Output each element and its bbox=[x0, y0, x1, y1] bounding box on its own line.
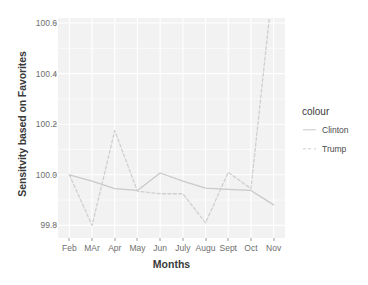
legend-key-swatch bbox=[302, 143, 317, 155]
y-axis-tick-mark bbox=[54, 225, 57, 226]
legend-key-swatch bbox=[302, 124, 317, 136]
y-axis-tick-mark bbox=[54, 73, 57, 74]
x-axis-tick-label: Feb bbox=[62, 243, 77, 253]
legend-title: colour bbox=[302, 106, 366, 117]
y-axis-tick-label: 100.0 bbox=[11, 170, 57, 180]
x-axis-tick-mark bbox=[92, 238, 93, 241]
y-axis-tick-label: 100.6 bbox=[11, 18, 57, 28]
y-axis-tick-mark bbox=[54, 174, 57, 175]
x-axis-tick-label: Nov bbox=[266, 243, 281, 253]
x-axis-tick-mark bbox=[160, 238, 161, 241]
legend-label: Clinton bbox=[322, 125, 348, 135]
x-axis-tick-label: May bbox=[129, 243, 145, 253]
x-axis-tick-label: July bbox=[175, 243, 190, 253]
x-axis-tick-label: Oct bbox=[244, 243, 257, 253]
legend-item-trump[interactable]: Trump bbox=[302, 143, 366, 155]
plot-area bbox=[58, 18, 285, 238]
x-axis-tick-mark bbox=[205, 238, 206, 241]
x-axis-tick-mark bbox=[137, 238, 138, 241]
legend-item-clinton[interactable]: Clinton bbox=[302, 124, 366, 136]
legend-label: Trump bbox=[322, 144, 346, 154]
legend-items: ClintonTrump bbox=[302, 124, 366, 155]
chart-container: Sensitvity based on Favorites Months 99.… bbox=[0, 0, 368, 285]
y-axis-tick-label: 100.2 bbox=[11, 119, 57, 129]
x-axis-tick-label: Apr bbox=[108, 243, 121, 253]
x-axis-tick-mark bbox=[182, 238, 183, 241]
x-axis-title: Months bbox=[58, 258, 285, 270]
legend: colour ClintonTrump bbox=[302, 106, 366, 162]
x-axis-tick-mark bbox=[228, 238, 229, 241]
x-axis-tick-mark bbox=[69, 238, 70, 241]
plot-panel bbox=[58, 18, 285, 238]
x-axis-tick-label: MAr bbox=[84, 243, 100, 253]
y-axis-tick-mark bbox=[54, 124, 57, 125]
y-axis-tick-label: 100.4 bbox=[11, 69, 57, 79]
x-axis-tick-label: Sept bbox=[220, 243, 238, 253]
series-line-trump bbox=[69, 18, 273, 225]
y-axis-tick-label: 99.8 bbox=[11, 220, 57, 230]
x-axis-tick-mark bbox=[114, 238, 115, 241]
y-axis-tick-mark bbox=[54, 23, 57, 24]
x-axis-tick-mark bbox=[273, 238, 274, 241]
x-axis-tick-mark bbox=[250, 238, 251, 241]
x-axis-tick-label: Jun bbox=[153, 243, 167, 253]
x-axis-tick-label: Augu bbox=[196, 243, 216, 253]
